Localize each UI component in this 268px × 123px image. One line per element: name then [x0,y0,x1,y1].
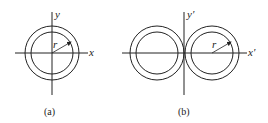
diagram-canvas: y x r (a) y′ x′ r (b) [0,0,268,123]
figure-a: y x r (a) [15,8,94,118]
radius-label: r [212,38,217,50]
x-axis-label: x [88,46,94,58]
figure-b: y′ x′ r (b) [122,8,256,118]
y-prime-axis-label: y′ [186,8,195,20]
caption-a: (a) [44,106,55,118]
radius-label: r [53,38,58,50]
caption-b: (b) [178,106,190,118]
x-prime-axis-label: x′ [247,46,256,58]
y-axis-label: y [54,8,60,20]
